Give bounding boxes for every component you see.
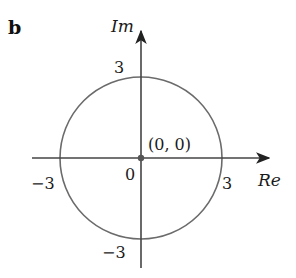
tick-right-3: 3 [222,174,232,193]
tick-top-3: 3 [114,58,124,77]
tick-left-neg3: −3 [31,174,55,193]
complex-plane-diagram: b Im Re 3 3 −3 −3 0 (0, 0) [0,0,296,278]
origin-coordinate-label: (0, 0) [148,135,191,154]
panel-label: b [8,16,21,38]
imaginary-axis-label: Im [110,16,134,36]
tick-bottom-neg3: −3 [102,243,126,262]
real-axis-label: Re [257,170,281,190]
origin-point [138,155,144,161]
origin-zero-label: 0 [125,165,135,184]
